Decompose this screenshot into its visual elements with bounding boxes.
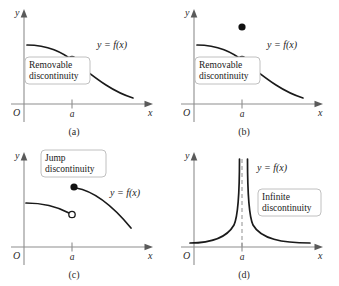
origin-label: O: [13, 250, 20, 261]
filled-dot-marker: [70, 183, 77, 190]
x-axis: [181, 101, 323, 108]
x-axis-label: x: [147, 250, 153, 261]
origin-label: O: [13, 107, 20, 118]
x-axis: [181, 244, 323, 251]
origin-label: O: [183, 250, 190, 261]
x-axis-label: x: [317, 250, 323, 261]
callout-line-1: Infinite: [262, 192, 290, 202]
x-axis-label: x: [317, 107, 323, 118]
y-axis-label: y: [184, 150, 190, 161]
panel-caption: (c): [68, 269, 79, 281]
function-curve-left-branch: [26, 203, 69, 213]
panel-caption: (d): [238, 269, 250, 281]
callout-removable-discontinuity: Removable discontinuity: [25, 57, 90, 84]
x-tick-label-a: a: [70, 109, 75, 119]
callout-line-2: discontinuity: [262, 203, 312, 213]
callout-jump-discontinuity: Jump discontinuity: [41, 150, 106, 177]
open-circle-marker: [69, 211, 75, 217]
callout-line-1: Removable: [199, 60, 242, 70]
x-tick-label-a: a: [240, 109, 245, 119]
callout-line-2: discontinuity: [199, 71, 249, 81]
callout-line-2: discontinuity: [29, 71, 79, 81]
panel-a-removable-discontinuity: Removable discontinuity y x O a y = f(x)…: [0, 0, 169, 143]
x-tick-label-a: a: [240, 252, 245, 262]
y-axis-label: y: [14, 7, 20, 18]
panel-caption: (a): [68, 126, 79, 138]
panel-caption: (b): [238, 126, 250, 138]
function-label: y = f(x): [266, 39, 298, 51]
y-axis-label: y: [14, 150, 20, 161]
x-tick-label-a: a: [70, 252, 75, 262]
callout-infinite-discontinuity: Infinite discontinuity: [258, 189, 321, 216]
y-axis: [191, 152, 198, 265]
function-curve-left-branch: [190, 159, 240, 243]
function-label: y = f(x): [109, 187, 141, 199]
origin-label: O: [183, 107, 190, 118]
function-label: y = f(x): [96, 39, 128, 51]
panel-b-removable-discontinuity-defined: Removable discontinuity y x O a y = f(x)…: [170, 0, 339, 143]
callout-line-1: Removable: [29, 60, 72, 70]
function-label: y = f(x): [256, 162, 288, 174]
x-axis: [11, 101, 153, 108]
y-axis: [21, 152, 28, 265]
y-axis-label: y: [184, 7, 190, 18]
filled-dot-marker: [238, 23, 245, 30]
callout-line-2: discontinuity: [45, 164, 95, 174]
discontinuity-figure: Removable discontinuity y x O a y = f(x)…: [0, 0, 339, 286]
panel-d-infinite-discontinuity: Infinite discontinuity y x O a y = f(x) …: [170, 143, 339, 286]
callout-line-1: Jump: [45, 153, 66, 163]
x-axis-label: x: [147, 107, 153, 118]
callout-removable-discontinuity: Removable discontinuity: [195, 57, 260, 84]
panel-c-jump-discontinuity: Jump discontinuity y x O a y = f(x) (c): [0, 143, 169, 286]
x-axis: [11, 244, 153, 251]
